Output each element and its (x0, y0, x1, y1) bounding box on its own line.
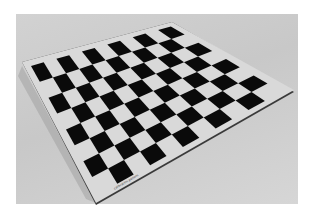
checkerboard: calibration pattern (0, 0, 312, 214)
